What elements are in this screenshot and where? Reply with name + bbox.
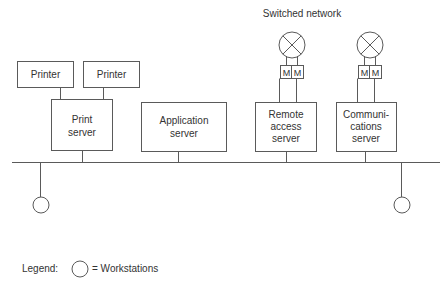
legend: Legend: = Workstations — [22, 261, 158, 277]
switch-remote — [279, 32, 305, 58]
print-server-label-line1: Print — [72, 114, 93, 125]
printer-1-label: Printer — [31, 69, 61, 80]
modem-comm-2: M — [370, 66, 382, 79]
legend-workstation-icon — [72, 261, 88, 277]
modem-remote-2: M — [292, 66, 304, 79]
legend-item: = Workstations — [92, 263, 158, 274]
switch-communications — [357, 32, 383, 58]
communications-server-label-line2: cations — [350, 121, 382, 132]
remote-access-server-label-line3: server — [272, 133, 300, 144]
application-server-label-line2: server — [170, 128, 198, 139]
network-diagram: Switched network Printer Printer Print s… — [0, 0, 448, 290]
print-server: Print server — [52, 100, 113, 151]
communications-server-label-line3: server — [352, 133, 380, 144]
remote-access-server: Remote access server — [256, 103, 317, 152]
print-server-label-line2: server — [68, 127, 96, 138]
printer-2: Printer — [84, 62, 140, 88]
printer-1: Printer — [18, 62, 74, 88]
svg-text:M: M — [294, 68, 302, 78]
switched-network-label: Switched network — [263, 8, 342, 19]
remote-access-server-label-line2: access — [270, 121, 301, 132]
communications-server-label-line1: Communi- — [343, 109, 389, 120]
printer-2-label: Printer — [97, 69, 127, 80]
application-server: Application server — [142, 103, 227, 152]
svg-text:M: M — [372, 68, 380, 78]
workstation-left-icon — [33, 197, 49, 213]
modem-remote-1: M — [281, 66, 293, 79]
svg-text:M: M — [283, 68, 291, 78]
legend-label: Legend: — [22, 263, 58, 274]
remote-access-server-label-line1: Remote — [268, 109, 303, 120]
svg-text:M: M — [361, 68, 369, 78]
workstation-right-icon — [394, 197, 410, 213]
modem-comm-1: M — [359, 66, 371, 79]
application-server-label-line1: Application — [160, 115, 209, 126]
communications-server: Communi- cations server — [337, 103, 397, 152]
